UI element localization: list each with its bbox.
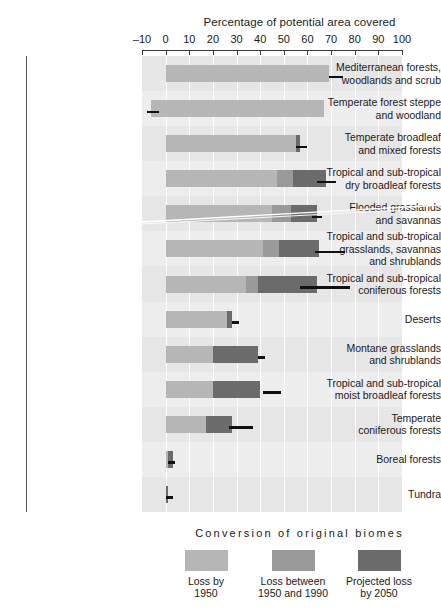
bar-segment-loss1950 — [166, 346, 213, 363]
bar-segment-loss1950 — [166, 135, 296, 152]
bar-segment-loss2050 — [168, 451, 173, 468]
bar-segment-loss2050 — [213, 381, 260, 398]
error-bar — [229, 426, 253, 429]
error-bar — [300, 286, 350, 289]
bar-segment-loss1950 — [166, 240, 263, 257]
bar-segment-loss2050 — [206, 416, 232, 433]
legend-swatch — [272, 550, 315, 571]
x-tick-label: 50 — [278, 33, 290, 45]
x-tick-label: 0 — [163, 33, 169, 45]
bar-segment-loss2050 — [258, 276, 317, 293]
error-bar — [329, 76, 343, 79]
category-label-line: and mixed forests — [291, 144, 441, 156]
x-tick-mark — [142, 50, 143, 55]
category-label-line: Deserts — [291, 313, 441, 325]
category-label: Montane grasslandsand shrublands — [291, 342, 441, 367]
category-label-line: Boreal forests — [291, 453, 441, 465]
category-label: Tundra — [291, 488, 441, 500]
x-tick-mark — [378, 50, 379, 55]
x-tick-mark — [237, 50, 238, 55]
legend-label: Projected lossby 2050 — [324, 575, 434, 600]
error-bar — [168, 461, 175, 464]
x-tick-mark — [284, 50, 285, 55]
legend-title: Conversion of original biomes — [158, 527, 441, 539]
category-label: Deserts — [291, 313, 441, 325]
x-tick-label: 90 — [372, 33, 384, 45]
category-label: Tropical and sub-tropicalmoist broadleaf… — [291, 377, 441, 402]
error-bar — [263, 391, 282, 394]
bar-segment-loss2050 — [291, 205, 317, 222]
category-label-line: Temperate broadleaf — [291, 131, 441, 143]
category-label-line: Temperate — [291, 412, 441, 424]
x-tick-mark — [331, 50, 332, 55]
x-tick-label: –10 — [133, 33, 151, 45]
bar-segment-loss1950 — [166, 205, 272, 222]
bar-segment-loss2050 — [279, 240, 319, 257]
x-tick-label: 70 — [325, 33, 337, 45]
category-label: Temperate broadleafand mixed forests — [291, 131, 441, 156]
x-axis-line — [142, 50, 402, 51]
x-tick-mark — [166, 50, 167, 55]
x-tick-label: 80 — [349, 33, 361, 45]
bar-segment-loss2050 — [213, 346, 258, 363]
bar-segment-loss1990 — [263, 240, 280, 257]
category-label-line: Montane grasslands — [291, 342, 441, 354]
error-bar — [315, 251, 346, 254]
bar-segment-loss1950 — [166, 311, 227, 328]
error-bar — [232, 321, 239, 324]
zero-reference-line — [26, 56, 27, 512]
category-label-line: coniferous forests — [291, 424, 441, 436]
category-label-line: moist broadleaf forests — [291, 389, 441, 401]
x-tick-label: 30 — [230, 33, 242, 45]
error-bar — [166, 496, 173, 499]
bar-segment-loss2050 — [227, 311, 232, 328]
category-label-line: Tundra — [291, 488, 441, 500]
x-tick-label: 100 — [393, 33, 411, 45]
x-tick-mark — [189, 50, 190, 55]
bar-segment-loss1990 — [277, 170, 294, 187]
category-label-line: Tropical and sub-tropical — [291, 377, 441, 389]
bar-segment-loss2050 — [296, 135, 301, 152]
legend-swatch — [358, 550, 401, 571]
legend-label-line: by 2050 — [324, 587, 434, 599]
category-label: Boreal forests — [291, 453, 441, 465]
x-tick-label: 60 — [301, 33, 313, 45]
legend-label-line: Projected loss — [324, 575, 434, 587]
bar-segment-loss1950 — [166, 65, 329, 82]
bar-segment-loss1950 — [166, 381, 213, 398]
error-bar — [296, 146, 308, 149]
error-bar — [312, 216, 321, 219]
x-tick-mark — [307, 50, 308, 55]
x-tick-mark — [402, 50, 403, 55]
bar-segment-loss1950 — [166, 416, 206, 433]
x-tick-mark — [355, 50, 356, 55]
x-tick-label: 40 — [254, 33, 266, 45]
category-label-line: and shrublands — [291, 354, 441, 366]
chart-container: Percentage of potential area covered –10… — [0, 0, 441, 615]
bar-segment-loss1990 — [272, 205, 291, 222]
bar-segment-loss2050 — [166, 486, 168, 503]
x-tick-label: 20 — [207, 33, 219, 45]
x-tick-mark — [260, 50, 261, 55]
bar-segment-loss1950 — [151, 100, 324, 117]
bar-segment-loss1950 — [166, 276, 246, 293]
bar-segment-loss2050 — [293, 170, 326, 187]
error-bar — [147, 111, 159, 114]
error-bar — [258, 356, 265, 359]
category-label: Temperateconiferous forests — [291, 412, 441, 437]
x-tick-label: 10 — [183, 33, 195, 45]
error-bar — [317, 181, 336, 184]
legend-swatch — [185, 550, 228, 571]
bar-segment-loss1950 — [166, 170, 277, 187]
bar-segment-loss1990 — [246, 276, 258, 293]
chart-title: Percentage of potential area covered — [158, 16, 441, 28]
x-tick-mark — [213, 50, 214, 55]
